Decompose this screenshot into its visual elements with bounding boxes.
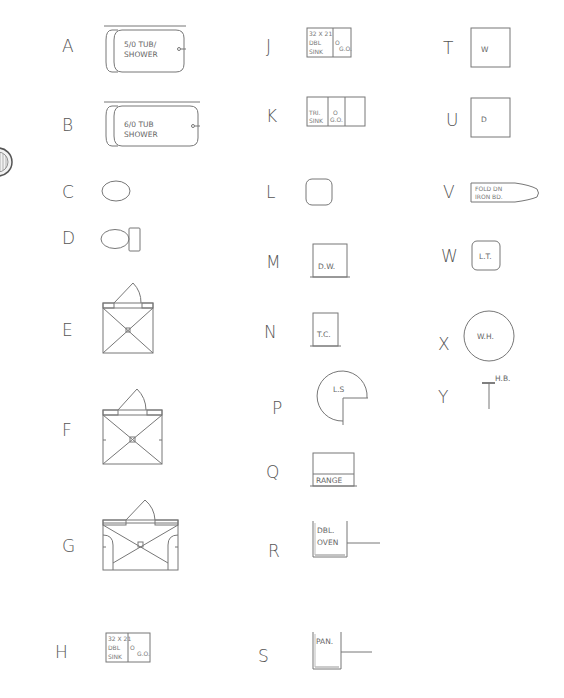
letter-n: N (264, 322, 277, 342)
sink-k-drain: O (333, 109, 338, 116)
tub-a-label-2: SHOWER (124, 50, 158, 59)
sink-j-go: G.O. (339, 45, 352, 52)
letter-b: B (62, 115, 73, 135)
symbol-c-lavatory: C (62, 181, 130, 202)
symbol-y-hose-bibb: Y H.B. (438, 374, 510, 409)
dw-label: D.W. (318, 262, 335, 271)
symbol-e-shower-stall: E (62, 283, 153, 353)
symbol-u-dryer: U D (446, 98, 510, 137)
washer-label: W (481, 45, 489, 54)
sink-j-size: 32 X 21 (309, 30, 332, 37)
letter-r: R (268, 541, 280, 561)
symbol-r-double-oven: R DBL. OVEN (268, 521, 380, 561)
symbol-w-laundry-tub: W L.T. (441, 241, 500, 270)
letter-y: Y (438, 387, 448, 407)
symbol-f-shower-stall: F (62, 389, 162, 464)
sink-k-go: G.O. (330, 116, 343, 123)
tub-b-label-2: SHOWER (124, 130, 158, 139)
wh-label: W.H. (477, 332, 494, 341)
oven-label-2: OVEN (317, 538, 338, 547)
letter-w: W (441, 246, 458, 266)
symbol-m-dishwasher: M D.W. (266, 244, 350, 277)
sink-j-dbl: DBL (309, 39, 322, 46)
letter-d: D (62, 228, 75, 248)
sink-h-drain: O (130, 644, 135, 651)
hb-label: H.B. (495, 374, 510, 383)
letter-x: X (438, 334, 450, 354)
sink-k-tri: TRI. (308, 109, 321, 116)
letter-f: F (62, 420, 72, 440)
symbol-q-range: Q RANGE (266, 453, 357, 486)
lt-label: L.T. (479, 252, 492, 261)
symbol-h-double-sink: H 32 X 21 DBL SINK O G.O. (55, 633, 150, 662)
letter-e: E (62, 320, 73, 340)
sink-h-go: G.O. (137, 650, 150, 657)
symbol-a-tub-shower: A 5/0 TUB/ SHOWER (62, 26, 186, 72)
oven-label-1: DBL. (317, 526, 334, 535)
iron-label-1: FOLD DN (475, 185, 502, 192)
sink-h-size: 32 X 21 (108, 635, 131, 642)
letter-k: K (266, 106, 277, 126)
letter-g: G (62, 536, 75, 556)
sink-h-sink: SINK (108, 653, 123, 660)
range-label: RANGE (316, 476, 342, 485)
symbol-p-lazy-susan: P L.S (272, 371, 368, 425)
symbol-l-bar-sink: L (266, 179, 332, 205)
tc-label: T.C. (316, 330, 331, 339)
letter-t: T (443, 38, 454, 58)
letter-l: L (266, 182, 275, 202)
symbols-legend: A 5/0 TUB/ SHOWER B 6/0 TUB SHOWER C D E (0, 0, 564, 698)
letter-j: J (266, 36, 271, 56)
symbol-x-water-heater: X W.H. (438, 311, 514, 361)
letter-h: H (55, 642, 68, 662)
tub-b-label-1: 6/0 TUB (124, 120, 154, 129)
symbol-v-ironing-board: V FOLD DN IRON BD. (443, 182, 539, 202)
iron-label-2: IRON BD. (475, 193, 503, 200)
symbol-s-pantry: S PAN. (258, 632, 372, 669)
ls-label: L.S (333, 385, 345, 394)
tub-a-label-1: 5/0 TUB/ (124, 40, 157, 49)
letter-s: S (258, 646, 269, 666)
symbol-n-trash-compactor: N T.C. (264, 313, 341, 346)
dryer-label: D (481, 115, 487, 124)
symbol-d-water-closet: D (62, 228, 140, 251)
pantry-label: PAN. (316, 637, 333, 646)
letter-a: A (62, 36, 74, 56)
symbol-g-shower-stall: G (62, 500, 178, 570)
letter-p: P (272, 398, 282, 418)
symbol-t-washer: T W (443, 28, 510, 67)
letter-u: U (446, 110, 458, 130)
sink-h-dbl: DBL (108, 644, 121, 651)
symbol-b-tub-shower: B 6/0 TUB SHOWER (62, 102, 200, 146)
partial-badge-icon (0, 148, 12, 176)
symbol-j-double-sink: J 32 X 21 DBL SINK O G.O. (266, 28, 352, 57)
letter-q: Q (266, 462, 279, 482)
sink-j-sink: SINK (309, 48, 324, 55)
symbol-k-triple-sink: K TRI. SINK O G.O. (266, 97, 365, 126)
letter-v: V (443, 182, 455, 202)
sink-k-sink: SINK (309, 117, 324, 124)
letter-c: C (62, 182, 74, 202)
letter-m: M (266, 252, 281, 272)
